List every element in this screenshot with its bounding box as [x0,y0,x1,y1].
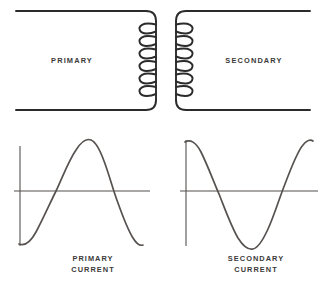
primary-top-wire [16,11,156,21]
secondary-coil-turn-1 [176,24,192,34]
primary-bottom-wire [16,100,156,110]
transformer-current-diagram: PRIMARY SECONDARY PRIMARY CURRENT SECOND… [0,0,326,286]
secondary-current-graph [180,140,318,249]
diagram-canvas: PRIMARY SECONDARY PRIMARY CURRENT SECOND… [0,0,326,286]
primary-coil-turn-2 [140,36,156,46]
secondary-winding [176,24,192,96]
primary-current-waveform [19,139,143,245]
secondary-coil-turn-3 [176,49,192,59]
primary-label: PRIMARY [51,56,93,65]
secondary-bottom-wire [176,100,310,110]
secondary-top-wire [176,11,310,21]
primary-coil-turn-6 [140,86,156,96]
secondary-coil-turn-6 [176,86,192,96]
primary-coil-turn-3 [140,49,156,59]
secondary-label: SECONDARY [225,56,282,65]
primary-coil-turn-5 [140,74,156,84]
secondary-current-waveform [185,140,313,249]
primary-current-graph [14,139,150,246]
secondary-coil-turn-4 [176,61,192,71]
primary-coil-turn-4 [140,61,156,71]
secondary-coil-turn-2 [176,36,192,46]
secondary-coil-turn-5 [176,74,192,84]
primary-current-caption-line2: CURRENT [71,265,114,274]
secondary-current-caption-line2: CURRENT [234,265,277,274]
secondary-current-caption-line1: SECONDARY [228,254,284,263]
primary-winding [140,24,156,96]
primary-current-caption-line1: PRIMARY [72,254,113,263]
primary-coil-turn-1 [140,24,156,34]
